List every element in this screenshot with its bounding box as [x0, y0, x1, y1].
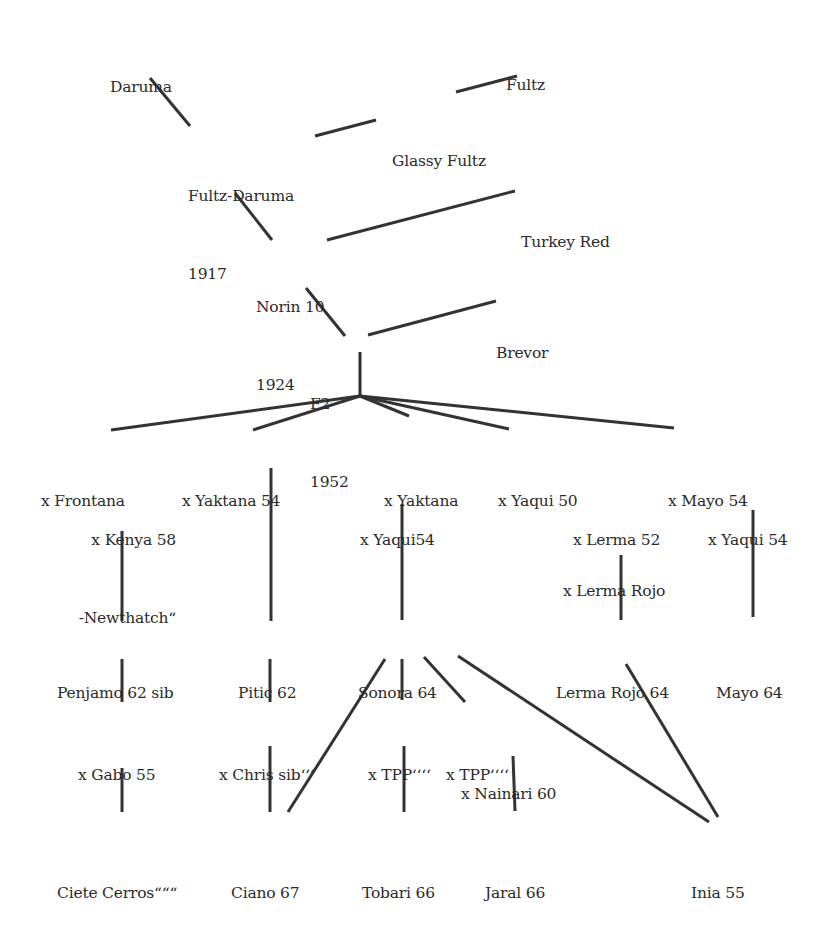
edge-f2-x-mayo-54 — [360, 396, 674, 428]
edge-glassy-fultz-fultz-daruma — [315, 120, 376, 136]
node-ciano-67: Ciano 67 — [231, 828, 299, 932]
node-mayo-64-line-1: Mayo 64 — [716, 680, 782, 706]
edge-f2-x-yaqui-50 — [360, 396, 509, 429]
node-norin-10-line-1: Norin 10 — [256, 294, 324, 320]
node-x-lerma-rojo: x Lerma Rojo — [563, 526, 665, 630]
node-inia-group: Inia 55 Noreste 66 Norteno 67 — [691, 828, 779, 939]
node-turkey-red: Turkey Red — [521, 177, 610, 281]
node-fultz: Fultz — [506, 20, 545, 124]
node-x-lerma-rojo-line-1: x Lerma Rojo — [563, 578, 665, 604]
node-x-yaktana-54-line-1: x Yaktana 54 — [182, 488, 280, 514]
node-pitic-62-line-1: Pitic 62 — [238, 680, 296, 706]
node-x-yaqui-50-line-1: x Yaqui 50 — [498, 488, 577, 514]
node-x-tpp-1: x TPP‘‘‘‘ — [368, 710, 431, 814]
node-x-gabo-55-line-1: x Gabo 55 — [78, 762, 155, 788]
node-jaral-66: Jaral 66 — [485, 828, 545, 932]
node-fultz-daruma-line-1: Fultz-Daruma — [188, 183, 294, 209]
node-x-yaqui-54: x Yaqui 54 — [708, 475, 787, 579]
node-glassy-fultz-line-1: Glassy Fultz — [392, 148, 486, 174]
node-x-yaqui54: x Yaqui54 — [360, 475, 435, 579]
node-daruma-line-1: Daruma — [110, 74, 172, 100]
node-f2: F2 1952 — [310, 339, 349, 521]
node-turkey-red-line-1: Turkey Red — [521, 229, 610, 255]
node-lerma-rojo-64-line-1: Lerma Rojo 64 — [556, 680, 669, 706]
node-lerma-rojo-64: Lerma Rojo 64 — [556, 628, 669, 732]
node-f2-year: 1952 — [310, 469, 349, 495]
node-brevor-line-1: Brevor — [496, 340, 548, 366]
node-tobari-66: Tobari 66 — [362, 828, 435, 932]
node-ciano-67-line-1: Ciano 67 — [231, 880, 299, 906]
node-f2-line-1: F2 — [310, 391, 349, 417]
node-x-yaktana-54: x Yaktana 54 — [182, 436, 280, 540]
node-penjamo-62-sib-line-1: Penjamo 62 sib — [57, 680, 174, 706]
node-x-chris-sib: x Chris sib‘‘‘ — [219, 710, 315, 814]
node-inia-55: Inia 55 — [691, 880, 779, 906]
node-ciete-cerros: Ciete Cerros“““ — [57, 828, 177, 932]
node-jaral-66-line-1: Jaral 66 — [485, 880, 545, 906]
node-x-yaqui-54-line-1: x Yaqui 54 — [708, 527, 787, 553]
node-x-nainari-60: x Nainari 60 — [461, 729, 556, 833]
node-tobari-66-line-1: Tobari 66 — [362, 880, 435, 906]
node-x-tpp-1-line-1: x TPP‘‘‘‘ — [368, 762, 431, 788]
node-x-yaqui54-line-1: x Yaqui54 — [360, 527, 435, 553]
edge-brevor-f2 — [368, 301, 496, 335]
node-daruma: Daruma — [110, 22, 172, 126]
node-fultz-line-1: Fultz — [506, 72, 545, 98]
node-mayo-64: Mayo 64 — [716, 628, 782, 732]
node-x-kenya-58-line-1: x Kenya 58 — [68, 527, 176, 553]
node-x-chris-sib-line-1: x Chris sib‘‘‘ — [219, 762, 315, 788]
node-brevor: Brevor — [496, 288, 548, 392]
node-glassy-fultz: Glassy Fultz — [392, 96, 486, 200]
node-ciete-cerros-line-1: Ciete Cerros“““ — [57, 880, 177, 906]
node-x-gabo-55: x Gabo 55 — [78, 710, 155, 814]
node-x-nainari-60-line-1: x Nainari 60 — [461, 781, 556, 807]
node-sonora-64-line-1: Sonora 64 — [358, 680, 437, 706]
node-x-yaqui-50: x Yaqui 50 — [498, 436, 577, 540]
